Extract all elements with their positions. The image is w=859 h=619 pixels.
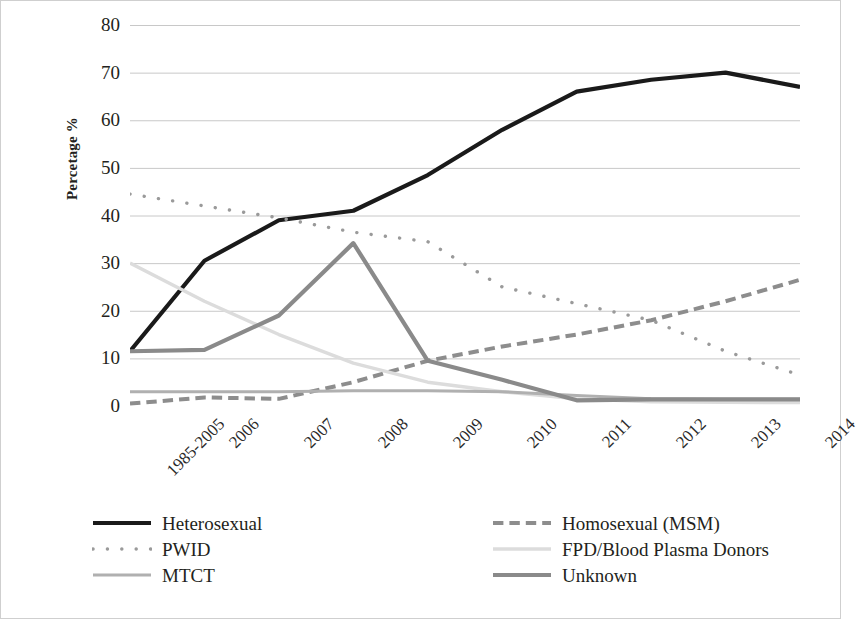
x-axis-tick-2012: 2012 <box>673 415 709 451</box>
legend-swatch-mtct-icon <box>92 568 152 582</box>
legend-label-homosexual-msm: Homosexual (MSM) <box>562 514 720 533</box>
x-axis-tick-1985-2005: 1985-2005 <box>164 415 228 479</box>
legend-label-fpd-blood-plasma-donors: FPD/Blood Plasma Donors <box>562 540 769 559</box>
x-axis-tick-2010: 2010 <box>524 415 560 451</box>
legend-item-unknown[interactable]: Unknown <box>492 562 822 588</box>
legend-item-pwid[interactable]: PWID <box>92 536 492 562</box>
x-axis-tick-2008: 2008 <box>375 415 411 451</box>
legend-swatch-pwid-icon <box>92 542 152 556</box>
legend-swatch-fpd-blood-plasma-donors-icon <box>492 542 552 556</box>
legend-label-unknown: Unknown <box>562 566 637 585</box>
x-axis-tick-2007: 2007 <box>301 415 337 451</box>
legend-label-pwid: PWID <box>162 540 211 559</box>
x-axis-tick-2014: 2014 <box>822 415 858 451</box>
chart-legend: HeterosexualHomosexual (MSM)PWIDFPD/Bloo… <box>92 510 812 588</box>
legend-swatch-unknown-icon <box>492 568 552 582</box>
legend-item-mtct[interactable]: MTCT <box>92 562 492 588</box>
legend-item-heterosexual[interactable]: Heterosexual <box>92 510 492 536</box>
x-axis-tick-2011: 2011 <box>598 415 634 451</box>
legend-item-fpd-blood-plasma-donors[interactable]: FPD/Blood Plasma Donors <box>492 536 822 562</box>
x-axis-tick-2013: 2013 <box>748 415 784 451</box>
legend-item-homosexual-msm[interactable]: Homosexual (MSM) <box>492 510 822 536</box>
legend-label-heterosexual: Heterosexual <box>162 514 262 533</box>
x-axis-tick-2009: 2009 <box>450 415 486 451</box>
legend-label-mtct: MTCT <box>162 566 215 585</box>
x-axis-tick-2006: 2006 <box>226 415 262 451</box>
legend-swatch-heterosexual-icon <box>92 516 152 530</box>
legend-swatch-homosexual-msm-icon <box>492 516 552 530</box>
